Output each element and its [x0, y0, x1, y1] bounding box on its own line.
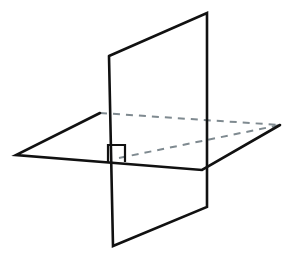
- geometry-diagram: [0, 0, 300, 262]
- figure-stage: [0, 0, 300, 262]
- horizontal-plane-fill: [16, 113, 280, 170]
